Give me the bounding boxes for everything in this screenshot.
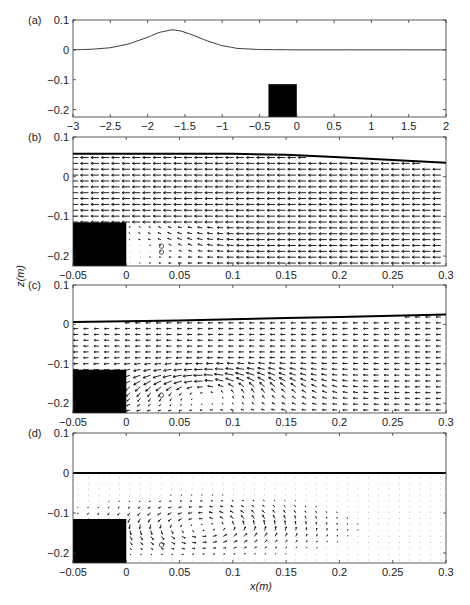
- x-tick-label: 0.3: [438, 269, 453, 281]
- y-tick-label: 0.1: [54, 427, 69, 439]
- y-tick-label: −0.2: [47, 547, 69, 559]
- x-tick-label: 0.3: [438, 566, 453, 578]
- x-tick-label: 0.25: [382, 566, 403, 578]
- x-tick-label: 0.15: [275, 269, 296, 281]
- y-tick-label: −0.1: [47, 358, 69, 370]
- y-tick-label: 0: [63, 44, 69, 56]
- panel-label: (d): [28, 427, 41, 439]
- x-tick-label: 0.2: [332, 416, 347, 428]
- x-tick-label: 0.2: [332, 566, 347, 578]
- plot-frame: [73, 20, 446, 117]
- x-tick-label: 1.5: [401, 120, 416, 132]
- obstacle-block: [73, 519, 126, 563]
- x-tick-label: −0.5: [249, 120, 271, 132]
- x-tick-label: 0: [123, 269, 129, 281]
- panel-label: (b): [28, 131, 41, 143]
- x-tick-label: 0: [123, 416, 129, 428]
- tracer-marker: [159, 244, 163, 248]
- y-tick-label: 0.1: [54, 279, 69, 291]
- panel-label: (a): [28, 14, 41, 26]
- y-axis-label: z(m): [14, 265, 26, 288]
- x-tick-label: 0.15: [275, 416, 296, 428]
- y-tick-label: −0.1: [47, 74, 69, 86]
- y-tick-label: −0.2: [47, 397, 69, 409]
- panel-d: −0.0500.050.10.150.20.250.30.10−0.1−0.2(…: [28, 427, 454, 578]
- free-surface-line: [73, 315, 446, 322]
- x-tick-label: −2.5: [99, 120, 121, 132]
- tracer-marker: [159, 543, 163, 547]
- x-tick-label: 0.15: [275, 566, 296, 578]
- panel-a: −3−2.5−2−1.5−1−0.500.511.520.10−0.1−0.2(…: [28, 14, 449, 132]
- x-tick-label: −2: [141, 120, 154, 132]
- obstacle-block: [268, 84, 296, 117]
- panel-c: −0.0500.050.10.150.20.250.30.10−0.1−0.2(…: [28, 279, 454, 428]
- x-tick-label: 0.1: [225, 269, 240, 281]
- x-tick-label: −1: [216, 120, 229, 132]
- y-tick-label: 0: [63, 171, 69, 183]
- panel-b: −0.0500.050.10.150.20.250.30.10−0.1−0.2(…: [28, 131, 454, 281]
- y-tick-label: −0.2: [47, 104, 69, 116]
- y-tick-label: 0.1: [54, 14, 69, 26]
- figure-canvas: −3−2.5−2−1.5−1−0.500.511.520.10−0.1−0.2(…: [0, 0, 470, 605]
- x-tick-label: 0.05: [169, 566, 190, 578]
- obstacle-block: [73, 222, 126, 266]
- x-tick-label: −0.05: [59, 566, 87, 578]
- y-tick-label: 0: [63, 318, 69, 330]
- x-tick-label: 0.1: [225, 566, 240, 578]
- x-tick-label: 0.2: [332, 269, 347, 281]
- panels: −3−2.5−2−1.5−1−0.500.511.520.10−0.1−0.2(…: [28, 14, 454, 578]
- x-tick-label: 0: [294, 120, 300, 132]
- x-axis-label: x(m): [249, 580, 272, 592]
- x-tick-label: 1: [368, 120, 374, 132]
- tracer-marker: [159, 250, 163, 254]
- x-tick-label: 0.3: [438, 416, 453, 428]
- x-tick-label: 2: [443, 120, 449, 132]
- y-tick-label: −0.1: [47, 507, 69, 519]
- x-tick-label: 0.5: [326, 120, 341, 132]
- x-tick-label: 0.05: [169, 416, 190, 428]
- tracer-marker: [159, 393, 163, 397]
- x-tick-label: 0.25: [382, 269, 403, 281]
- plot-frame: [73, 137, 446, 266]
- x-tick-label: 0.1: [225, 416, 240, 428]
- y-tick-label: 0.1: [54, 131, 69, 143]
- panel-label: (c): [28, 279, 41, 291]
- x-tick-label: 0.05: [169, 269, 190, 281]
- plot-frame: [73, 433, 446, 563]
- y-tick-label: 0: [63, 467, 69, 479]
- quiver-field: [78, 477, 442, 560]
- x-tick-label: 0: [123, 566, 129, 578]
- y-tick-label: −0.1: [47, 210, 69, 222]
- obstacle-block: [73, 370, 126, 413]
- wave-profile-line: [73, 30, 446, 50]
- x-tick-label: 0.25: [382, 416, 403, 428]
- y-tick-label: −0.2: [47, 250, 69, 262]
- quiver-field: [73, 316, 441, 411]
- x-tick-label: −1.5: [174, 120, 196, 132]
- free-surface-line: [73, 154, 446, 163]
